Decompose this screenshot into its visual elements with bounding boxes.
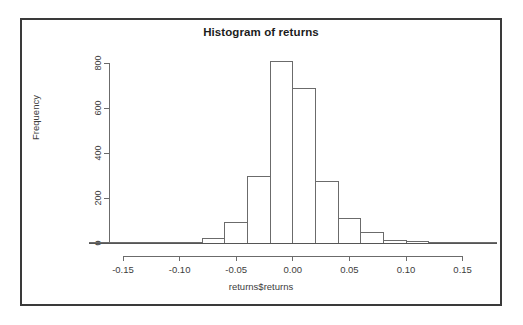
histogram-plot: 0200400600800 -0.15-0.10-0.050.000.050.1… (22, 20, 500, 304)
x-tick-label: 0.10 (397, 264, 416, 275)
x-tick-label: -0.05 (225, 264, 247, 275)
y-tick-label: 400 (93, 145, 103, 160)
histogram-bar (293, 89, 316, 243)
x-tick-label: 0.15 (453, 264, 472, 275)
figure-frame: Histogram of returns Frequency returns$r… (20, 18, 502, 306)
y-tick-label: 600 (93, 100, 103, 115)
screenshot-root: Histogram of returns Frequency returns$r… (0, 0, 523, 325)
y-tick-label: 200 (93, 190, 103, 205)
y-axis: 0200400600800 (93, 55, 109, 245)
x-tick-label: -0.15 (112, 264, 134, 275)
x-axis: -0.15-0.10-0.050.000.050.100.15 (112, 256, 472, 275)
histogram-bar (338, 219, 361, 243)
histogram-bar (270, 62, 293, 243)
y-tick-label: 800 (93, 55, 103, 70)
histogram-bar (315, 181, 338, 243)
histogram-bar (248, 177, 271, 243)
histogram-bar (202, 238, 225, 243)
histogram-bar (225, 223, 248, 243)
x-tick-label: -0.10 (169, 264, 191, 275)
histogram-bar (361, 233, 384, 243)
plot-area: Histogram of returns Frequency returns$r… (22, 20, 500, 304)
x-tick-label: 0.00 (284, 264, 303, 275)
x-tick-label: 0.05 (340, 264, 359, 275)
histogram-bars (89, 62, 497, 243)
